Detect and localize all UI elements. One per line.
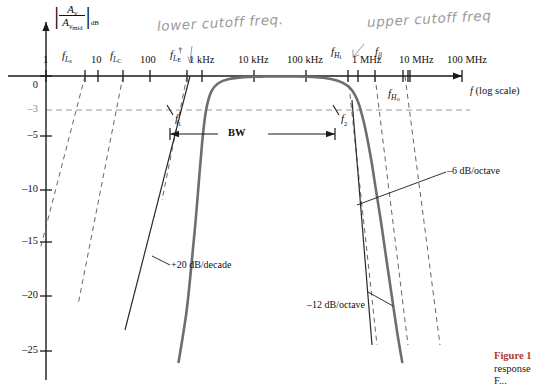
y-tick-label-minus15: –15 (13, 236, 38, 247)
x-tick-label-10khz: 10 kHz (238, 55, 269, 66)
y-tick-label-minus3: –3 (18, 104, 38, 115)
label-f-Ls: fLs (62, 50, 72, 61)
label-f-Ho: fHo (388, 88, 400, 99)
y-axis-numerator: Av (59, 4, 85, 16)
figure-caption-line3: F... (494, 375, 544, 388)
y-axis-arrowhead (42, 22, 49, 31)
label-f-beta: fβ (375, 46, 382, 57)
y-tick-label-0: 0 (22, 80, 38, 91)
x-tick-label-1khz: 1 kHz (189, 55, 214, 66)
y-axis-denominator: Avmid (59, 16, 85, 28)
y-axis-title: |AvAvmid|dB (54, 4, 99, 28)
x-tick-label-10: 10 (91, 55, 102, 66)
x-tick-label-100: 100 (140, 55, 156, 66)
x-axis-arrowhead (453, 72, 462, 79)
x-axis-title: f (log scale) (470, 86, 520, 97)
x-axis-title-text: (log scale) (476, 85, 520, 96)
f1-f2-markers (167, 105, 339, 115)
asymptote-f-Ho (405, 76, 440, 345)
low-frequency-asymptotes (40, 76, 187, 305)
slope-label-minus12db-octave: –12 dB/octave (307, 300, 365, 310)
figure-caption-number: Figure 1 (494, 350, 544, 363)
y-tick-label-minus10: –10 (13, 184, 38, 195)
bandwidth-arrow (170, 128, 335, 140)
y-tick-label-minus5: –5 (18, 130, 38, 141)
label-f2: f2 (341, 113, 347, 124)
x-tick-label-10mhz: 10 MHz (399, 55, 434, 66)
label-f-Lc: fLC (110, 50, 122, 61)
figure-frequency-response: |AvAvmid|dB f (log scale) 1 10 100 1 kHz… (0, 0, 544, 388)
slope-label-minus6db-octave: –6 dB/octave (447, 166, 500, 176)
figure-caption: Figure 1 response F... (494, 350, 544, 388)
label-f-Hi: fHi (331, 46, 341, 57)
x-tick-label-100mhz: 100 MHz (447, 55, 487, 66)
label-f-LE: fLE† (170, 49, 185, 60)
y-axis-unit: dB (91, 20, 99, 27)
x-tick-label-100khz: 100 kHz (287, 55, 323, 66)
leader-plus20db (152, 256, 170, 265)
y-axis-fraction: AvAvmid (59, 4, 85, 28)
asymptote-f-Ls (40, 76, 85, 250)
bw-arrowhead-right (326, 131, 335, 137)
frequency-response-curve (179, 76, 403, 362)
y-tick-label-minus25: –25 (13, 345, 38, 356)
label-f1: f1 (175, 113, 181, 124)
x-tick-label-1: 1 (43, 55, 48, 66)
leader-minus6db (357, 172, 446, 205)
slope-label-plus20db-decade: +20 dB/decade (171, 260, 231, 270)
y-tick-label-minus20: –20 (13, 290, 38, 301)
figure-caption-line2: response (494, 363, 544, 376)
leader-minus12db (368, 292, 393, 306)
bandwidth-label: BW (228, 128, 246, 139)
